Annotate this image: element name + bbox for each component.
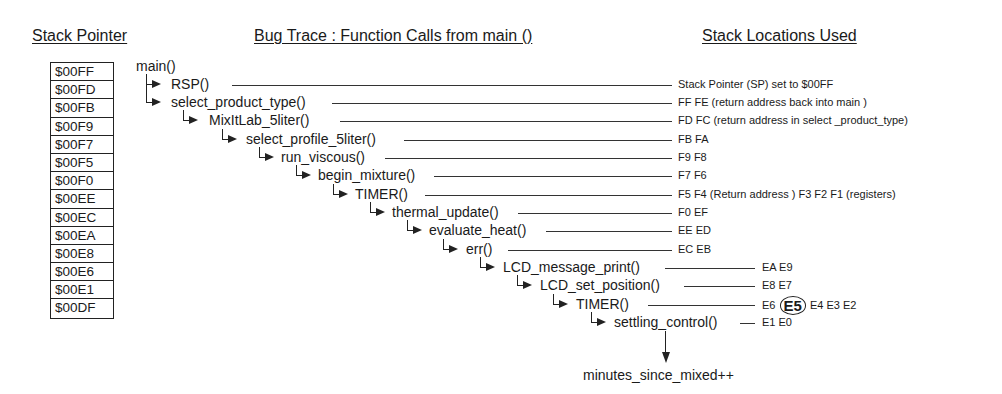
header-stack-pointer: Stack Pointer — [32, 27, 127, 45]
function-call: evaluate_heat() — [429, 222, 526, 238]
connector-line — [404, 140, 672, 141]
function-main: main() — [136, 58, 176, 74]
stack-location: FB FA — [678, 133, 709, 146]
connector-line — [684, 286, 755, 287]
stack-location-before: E6 — [762, 299, 775, 311]
stack-location: E8 E7 — [762, 279, 792, 292]
arrow-right-icon — [265, 153, 274, 161]
stack-pointer-cell: $00E6 — [51, 263, 113, 281]
stack-location: EC EB — [678, 243, 711, 256]
connector-line — [508, 250, 672, 251]
function-call: begin_mixture() — [318, 167, 415, 183]
stack-location: F5 F4 (Return address ) F3 F2 F1 (regist… — [678, 188, 896, 201]
stack-location: EA E9 — [762, 261, 793, 274]
stack-location: E6 E5 E4 E3 E2 — [762, 296, 856, 315]
stack-location: Stack Pointer (SP) set to $00FF — [678, 78, 833, 91]
function-call: select_product_type() — [171, 94, 306, 110]
function-call: thermal_update() — [392, 204, 499, 220]
connector-line — [648, 305, 755, 306]
arrow-down-icon — [662, 352, 670, 363]
arrow-right-icon — [486, 263, 495, 271]
function-call: LCD_set_position() — [540, 277, 660, 293]
stack-pointer-cell: $00F5 — [51, 154, 113, 172]
arrow-right-icon — [597, 318, 606, 326]
connector-line — [332, 103, 672, 104]
arrow-right-icon — [449, 245, 458, 253]
header-stack-locations: Stack Locations Used — [702, 27, 857, 45]
function-call: select_profile_5liter() — [246, 131, 376, 147]
connector-line — [434, 176, 672, 177]
stack-pointer-cell: $00EC — [51, 209, 113, 227]
connector-line — [518, 213, 672, 214]
function-call: TIMER() — [576, 296, 629, 312]
stack-pointer-table: $00FF $00FD $00FB $00F9 $00F7 $00F5 $00F… — [50, 62, 114, 319]
connector-line — [665, 268, 755, 269]
down-arrow-line — [665, 331, 666, 353]
connector-line — [232, 85, 672, 86]
function-call: RSP() — [171, 76, 209, 92]
stack-location: FD FC (return address in select _product… — [678, 114, 908, 127]
stack-pointer-cell: $00FF — [51, 63, 113, 81]
stack-location: F7 F6 — [678, 169, 707, 182]
function-call: LCD_message_print() — [503, 259, 640, 275]
stack-pointer-cell: $00E8 — [51, 245, 113, 263]
function-call: TIMER() — [355, 186, 408, 202]
arrow-right-icon — [339, 190, 348, 198]
stack-pointer-cell: $00FD — [51, 81, 113, 99]
arrow-right-icon — [523, 281, 532, 289]
stack-pointer-cell: $00E1 — [51, 281, 113, 299]
stack-pointer-cell: $00F9 — [51, 118, 113, 136]
connector-line — [740, 323, 755, 324]
function-call: MixItLab_5liter() — [209, 112, 309, 128]
function-call: err() — [466, 241, 492, 257]
stack-location: E1 E0 — [762, 316, 792, 329]
arrow-right-icon — [152, 98, 161, 106]
stack-location: FF FE (return address back into main ) — [678, 96, 867, 109]
arrow-right-icon — [189, 116, 198, 124]
stack-location-after: E4 E3 E2 — [810, 299, 856, 311]
connector-line — [385, 158, 672, 159]
stack-pointer-cell: $00F7 — [51, 136, 113, 154]
connector-line — [546, 231, 672, 232]
arrow-right-icon — [413, 226, 422, 234]
stack-location: F9 F8 — [678, 151, 707, 164]
stack-pointer-cell: $00F0 — [51, 172, 113, 190]
stack-pointer-cell: $00EA — [51, 227, 113, 245]
arrow-right-icon — [152, 80, 161, 88]
connector-line — [340, 121, 672, 122]
stack-pointer-cell: $00DF — [51, 299, 113, 317]
stack-pointer-cell: $00FB — [51, 99, 113, 117]
arrow-right-icon — [228, 135, 237, 143]
arrow-right-icon — [302, 171, 311, 179]
stack-location: F0 EF — [678, 206, 708, 219]
stack-pointer-cell: $00EE — [51, 190, 113, 208]
arrow-right-icon — [559, 300, 568, 308]
final-statement: minutes_since_mixed++ — [583, 367, 734, 383]
stack-location: EE ED — [678, 224, 711, 237]
highlighted-stack-location: E5 — [780, 296, 806, 315]
connector-line — [425, 195, 672, 196]
function-call: run_viscous() — [281, 149, 365, 165]
header-bug-trace: Bug Trace : Function Calls from main () — [254, 27, 532, 45]
arrow-right-icon — [376, 208, 385, 216]
function-call: settling_control() — [614, 314, 718, 330]
